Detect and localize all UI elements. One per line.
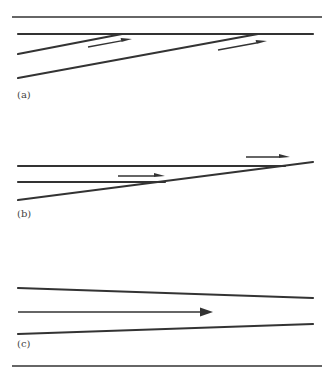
arrow-head-icon xyxy=(279,154,290,158)
arrow-head-icon xyxy=(256,40,267,44)
arrow-head-icon xyxy=(154,173,165,177)
fault-line xyxy=(18,324,313,334)
panel-b: (b) xyxy=(17,154,313,219)
panel-a: (a) xyxy=(17,34,313,100)
fault-line xyxy=(18,34,258,78)
panel-label: (a) xyxy=(17,89,31,100)
panels: (a)(b)(c) xyxy=(17,34,313,349)
fault-line xyxy=(18,288,313,298)
fault-diagram: (a)(b)(c) xyxy=(0,0,334,377)
arrow-head-icon xyxy=(200,308,213,317)
arrow-head-icon xyxy=(121,38,132,42)
slip-arrow-shaft xyxy=(218,43,256,50)
slip-arrow-shaft xyxy=(88,41,121,47)
panel-label: (c) xyxy=(17,338,31,349)
border-rules xyxy=(12,17,322,366)
panel-c: (c) xyxy=(17,288,313,349)
panel-label: (b) xyxy=(17,208,31,219)
